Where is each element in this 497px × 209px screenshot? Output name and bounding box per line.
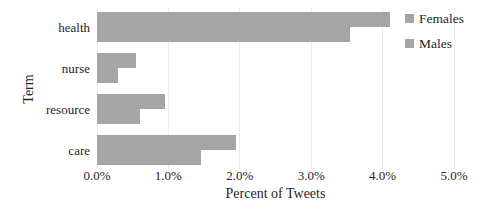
- bar-females-nurse: [97, 53, 136, 68]
- legend-item-males: Males: [405, 36, 464, 51]
- category-label-care: care: [0, 143, 90, 156]
- bar-group-care: [97, 129, 454, 170]
- bar-group-nurse: [97, 48, 454, 89]
- bar-females-care: [97, 135, 236, 150]
- bar-group-resource: [97, 89, 454, 130]
- x-tick-4.0%: 4.0%: [369, 169, 396, 182]
- legend-swatch-icon: [405, 39, 414, 48]
- bar-chart-percent-of-tweets: Term healthnurseresourcecare 0.0%1.0%2.0…: [0, 0, 497, 209]
- x-axis-title: Percent of Tweets: [97, 187, 454, 201]
- bar-males-health: [97, 27, 350, 42]
- bar-group-health: [97, 7, 454, 48]
- bar-males-nurse: [97, 68, 118, 83]
- legend-label-females: Females: [419, 12, 464, 26]
- legend-item-females: Females: [405, 11, 464, 26]
- x-tick-5.0%: 5.0%: [440, 169, 467, 182]
- x-tick-0.0%: 0.0%: [83, 169, 110, 182]
- category-label-resource: resource: [0, 102, 90, 115]
- bar-males-care: [97, 150, 201, 165]
- category-label-nurse: nurse: [0, 62, 90, 75]
- legend: FemalesMales: [405, 11, 464, 61]
- legend-swatch-icon: [405, 14, 414, 23]
- category-label-health: health: [0, 21, 90, 34]
- plot-area: [97, 7, 454, 170]
- bar-males-resource: [97, 109, 140, 124]
- x-tick-2.0%: 2.0%: [226, 169, 253, 182]
- bar-females-resource: [97, 94, 165, 109]
- legend-label-males: Males: [419, 37, 452, 51]
- x-tick-1.0%: 1.0%: [155, 169, 182, 182]
- x-tick-3.0%: 3.0%: [298, 169, 325, 182]
- y-axis-title: Term: [22, 74, 36, 103]
- bar-females-health: [97, 12, 390, 27]
